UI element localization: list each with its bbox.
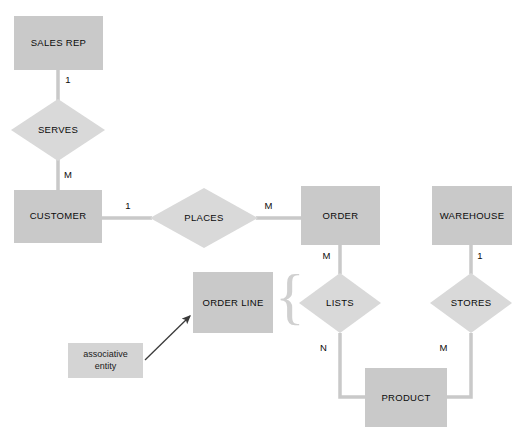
annotation-note-box[interactable] [68,343,143,378]
connector-stores-product [447,333,471,397]
entity-box-product[interactable] [365,368,447,427]
relationship-diamond-serves[interactable] [11,99,105,161]
entity-box-warehouse[interactable] [432,186,512,245]
entity-box-sales-rep[interactable] [14,16,103,70]
er-diagram-canvas: SALES REP CUSTOMER ORDER WAREHOUSE ORDER… [0,0,526,439]
er-diagram-svg [0,0,526,439]
entity-box-customer[interactable] [14,190,102,243]
annotation-arrow [145,316,190,360]
order-line-grouping-brace: { [275,265,305,327]
relationship-diamond-stores[interactable] [430,273,512,333]
connector-lists-product [340,333,365,397]
entity-box-order[interactable] [301,186,380,245]
relationship-diamond-lists[interactable] [299,273,381,333]
relationship-diamond-places[interactable] [150,188,258,248]
entity-box-order-line[interactable] [193,272,273,333]
